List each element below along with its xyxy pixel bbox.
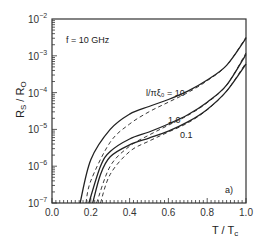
x-tick-label: 0.6	[161, 207, 175, 218]
frequency-annotation: f = 10 GHz	[66, 35, 110, 45]
curve-solid	[80, 38, 246, 203]
curve-dashed	[101, 63, 247, 203]
curve-dashed	[86, 37, 246, 203]
x-tick-label: 0.2	[84, 207, 98, 218]
x-tick-label: 0.8	[200, 207, 214, 218]
y-axis-label: RS / RO	[14, 81, 28, 118]
y-tick-label: 10−3	[28, 49, 47, 62]
x-axis-label: T / Tc	[212, 224, 238, 238]
curve-solid	[93, 64, 246, 203]
x-tick-label: 0.4	[123, 207, 137, 218]
curves	[80, 37, 246, 203]
x-tick-label: 0.0	[45, 207, 59, 218]
y-minor-ticks	[52, 21, 57, 203]
y-tick-label: 10−2	[28, 12, 47, 25]
curve-solid	[89, 54, 246, 203]
y-tick-label: 10−5	[28, 122, 47, 135]
series-label-0.1: 0.1	[180, 130, 193, 140]
chart: 10−210−310−410−510−610−7 0.00.20.40.60.8…	[0, 0, 265, 248]
plot-frame	[52, 19, 246, 203]
x-tick-labels: 0.00.20.40.60.81.0	[45, 207, 253, 218]
y-tick-label: 10−6	[28, 159, 47, 172]
curve-dashed	[97, 53, 246, 203]
x-tick-label: 1.0	[239, 207, 253, 218]
y-tick-label: 10−4	[28, 86, 47, 99]
series-label-1: 1.0	[168, 115, 181, 125]
series-label-10: l/πξ₀ = 10	[146, 88, 185, 98]
panel-label: a)	[225, 185, 233, 195]
y-tick-labels: 10−210−310−410−510−610−7	[28, 12, 47, 209]
